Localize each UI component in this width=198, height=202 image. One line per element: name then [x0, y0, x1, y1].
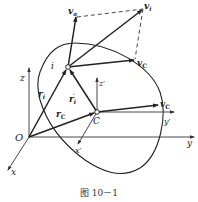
label-r-i: ri [38, 89, 46, 100]
label-point-c: C [93, 116, 100, 126]
vector-v-c-at-i [68, 60, 134, 67]
label-axis-y: y [186, 138, 193, 148]
label-v-a: va [68, 6, 77, 17]
label-axis-z: z [19, 73, 25, 83]
label-v-i: vi [144, 1, 152, 12]
label-r-c: rC [56, 109, 66, 120]
label-r-i-prime: ri′ [69, 92, 77, 105]
label-axis-y-prime: y′ [163, 117, 171, 126]
parallelogram-top-dashed [77, 9, 143, 17]
label-origin: O [15, 132, 23, 143]
vector-v-c-at-c [97, 105, 158, 112]
label-axis-z-prime: z′ [98, 79, 105, 88]
rigid-body-kinematics-diagram: va vi vC vC i ri ri′ rC O C z y x z′ y′ … [0, 0, 198, 202]
label-v-c-top: vC [137, 58, 147, 69]
label-axis-x-prime: x′ [75, 146, 82, 155]
vector-r-i [29, 70, 66, 137]
label-point-i: i [51, 61, 54, 71]
vector-v-a [68, 17, 76, 67]
vector-r-i-prime [70, 70, 97, 112]
parallelogram-right-dashed [135, 9, 143, 59]
figure-caption: 图 10－1 [80, 188, 118, 198]
point-i-marker [66, 65, 71, 70]
label-v-c-right: vC [160, 99, 170, 110]
vector-v-i [68, 10, 142, 67]
label-axis-x: x [11, 167, 16, 177]
point-c-marker [95, 110, 100, 115]
